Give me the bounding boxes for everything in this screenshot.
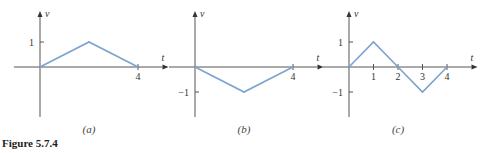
y-tick-label: −1: [332, 87, 343, 98]
x-axis-arrow-icon: [163, 65, 169, 70]
data-point: [39, 66, 41, 68]
panel-b: vt4−1(b): [169, 8, 324, 136]
panel-caption: (a): [83, 123, 96, 136]
data-point: [292, 66, 294, 68]
data-point: [243, 91, 245, 93]
figure-caption: Figure 5.7.4: [2, 137, 58, 149]
y-tick-label: 1: [29, 37, 34, 48]
data-point: [373, 41, 375, 43]
data-point: [88, 41, 90, 43]
data-point: [194, 66, 196, 68]
x-axis-arrow-icon: [318, 65, 324, 70]
x-axis-label: t: [471, 52, 474, 63]
figure-canvas: vt41(a)vt4−1(b)vt12341−1(c): [0, 0, 493, 153]
y-axis-label: v: [45, 8, 50, 19]
x-tick-label: 1: [371, 71, 376, 82]
y-axis-arrow-icon: [38, 11, 43, 17]
y-axis-label: v: [200, 8, 205, 19]
x-tick-label: 4: [136, 71, 141, 82]
data-point: [137, 66, 139, 68]
x-axis-label: t: [162, 52, 165, 63]
panel-c: vt12341−1(c): [323, 8, 478, 136]
panel-a: vt41(a): [14, 8, 169, 136]
series-line: [40, 42, 138, 67]
y-axis-arrow-icon: [193, 11, 198, 17]
y-tick-label: 1: [338, 37, 343, 48]
x-tick-label: 4: [445, 71, 450, 82]
x-axis-label: t: [317, 52, 320, 63]
data-point: [397, 66, 399, 68]
x-tick-label: 2: [396, 71, 401, 82]
y-axis-label: v: [354, 8, 359, 19]
series-line: [195, 67, 293, 92]
panel-caption: (b): [238, 123, 251, 136]
data-point: [422, 91, 424, 93]
x-axis-arrow-icon: [472, 65, 478, 70]
data-point: [348, 66, 350, 68]
x-tick-label: 3: [420, 71, 425, 82]
y-axis-arrow-icon: [347, 11, 352, 17]
data-point: [446, 66, 448, 68]
y-tick-label: −1: [178, 87, 189, 98]
panel-caption: (c): [392, 123, 405, 136]
x-tick-label: 4: [291, 71, 296, 82]
